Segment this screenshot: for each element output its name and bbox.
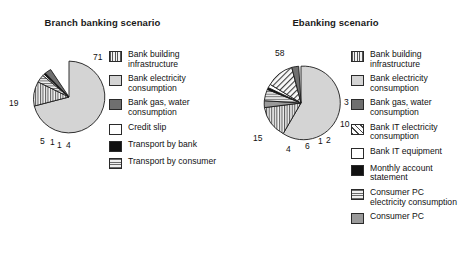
legend-item: Bank IT equipment — [351, 147, 458, 159]
legend-item-label: Credit slip — [128, 123, 166, 133]
page-title-right: Ebanking scenario — [221, 17, 450, 28]
legend-swatch-bank-building-icon — [351, 51, 364, 62]
pie-svg-left — [30, 58, 108, 136]
legend-item-label: Transport by consumer — [128, 157, 216, 167]
legend-item: Bank gas, water consumption — [351, 98, 458, 117]
legend-swatch-bank-it-equipment-icon — [351, 148, 364, 159]
legend-item: Bank IT electricity consumption — [351, 123, 458, 142]
legend-item-label: Consumer PC — [370, 212, 424, 222]
legend-swatch-bank-electricity-icon — [351, 75, 364, 86]
legend-swatch-bank-gas-water-icon — [109, 99, 122, 110]
legend-item: Transport by bank — [109, 140, 223, 152]
pie-value-label-15: 15 — [253, 134, 262, 143]
legend-item-label: Bank building infrastructure — [128, 50, 223, 69]
legend-swatch-credit-slip-icon — [109, 124, 122, 135]
legend-item: Bank electricity consumption — [109, 74, 223, 93]
pie-value-label-58: 58 — [275, 49, 284, 58]
legend-item: Credit slip — [109, 123, 223, 135]
legend-swatch-bank-building-icon — [109, 51, 122, 62]
pie-svg-right — [261, 63, 341, 143]
legend-item: Transport by consumer — [109, 157, 223, 169]
pie-value-label-2: 2 — [326, 136, 331, 145]
pie-value-label-4: 4 — [66, 141, 71, 150]
legend-item-label: Bank electricity consumption — [128, 74, 223, 93]
legend-item-label: Bank IT electricity consumption — [370, 123, 458, 142]
legend-item-label: Bank electricity consumption — [370, 74, 458, 93]
legend-item: Bank electricity consumption — [351, 74, 458, 93]
legend-swatch-transport-consumer-icon — [109, 158, 122, 169]
legend-swatch-transport-bank-icon — [109, 141, 122, 152]
legend-swatch-bank-gas-water-icon — [351, 99, 364, 110]
legend-branch-banking: Bank building infrastructure Bank electr… — [109, 50, 223, 174]
legend-item: Consumer PC — [351, 212, 458, 224]
legend-item: Monthly account statement — [351, 164, 458, 183]
pie-value-label-1: 1 — [318, 137, 323, 146]
pie-value-label-4: 4 — [286, 145, 291, 154]
legend-item: Bank building infrastructure — [109, 50, 223, 69]
pie-chart-ebanking: 58 3 10 2 1 6 4 15 — [261, 63, 341, 143]
legend-item-label: Monthly account statement — [370, 164, 458, 183]
pie-value-label-19: 19 — [9, 99, 18, 108]
legend-item-label: Transport by bank — [128, 140, 197, 150]
legend-swatch-consumer-pc-electricity-icon — [351, 189, 364, 200]
pie-value-label-71: 71 — [93, 53, 102, 62]
legend-item-label: Bank building infrastructure — [370, 50, 458, 69]
legend-ebanking: Bank building infrastructure Bank electr… — [351, 50, 458, 229]
ebanking-chart-panel: Ebanking scenario — [229, 0, 458, 265]
legend-swatch-bank-electricity-icon — [109, 75, 122, 86]
legend-swatch-bank-it-electricity-icon — [351, 124, 364, 135]
legend-item-label: Bank gas, water consumption — [370, 98, 458, 117]
legend-swatch-consumer-pc-icon — [351, 213, 364, 224]
legend-item-label: Bank IT equipment — [370, 147, 442, 157]
page-title-left: Branch banking scenario — [0, 17, 217, 28]
legend-item-label: Consumer PC electricity consumption — [370, 188, 458, 207]
pie-value-label-6: 6 — [305, 142, 310, 151]
legend-swatch-monthly-account-statement-icon — [351, 165, 364, 176]
pie-value-label-3: 3 — [344, 98, 349, 107]
pie-value-label-1a: 1 — [50, 138, 55, 147]
legend-item: Bank building infrastructure — [351, 50, 458, 69]
pie-value-label-10: 10 — [340, 120, 349, 129]
branch-banking-chart-panel: Branch banking scenario — [0, 0, 229, 265]
pie-chart-branch-banking: 71 19 5 1 1 4 — [30, 58, 108, 136]
legend-item-label: Bank gas, water consumption — [128, 98, 223, 117]
legend-item: Bank gas, water consumption — [109, 98, 223, 117]
legend-item: Consumer PC electricity consumption — [351, 188, 458, 207]
pie-value-label-5: 5 — [40, 137, 45, 146]
pie-value-label-1b: 1 — [57, 141, 62, 150]
